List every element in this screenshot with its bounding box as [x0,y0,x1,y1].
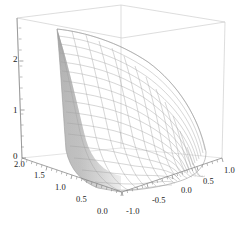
x-tick-label: 0.5 [76,195,87,204]
y-tick-label: -0.5 [152,196,165,205]
y-tick-label: 0.0 [181,186,192,195]
frame-bottom-back [22,148,222,158]
x-tick-label: 2.0 [14,160,25,169]
y-tick-label: 1.0 [224,166,235,175]
frame-edge-right [222,22,225,158]
z-tick-label: 2 [13,55,18,64]
x-tick-label: 1.5 [34,171,45,180]
mesh-line-b [173,116,196,176]
shaded-cut-face [57,29,121,192]
y-tick-label: -1.0 [126,207,139,216]
z-tick-label: 1 [13,106,18,115]
y-tick-label: 0.5 [203,177,214,186]
mesh-line-b [180,131,200,176]
x-tick-label: 0.0 [97,207,108,216]
axes-group [17,18,223,196]
plot-canvas [0,0,243,234]
cut-face-shadow [57,29,121,192]
x-tick-label: 1.0 [55,183,66,192]
surface-plot-figure: 0 1 2 2.0 1.5 1.0 0.5 0.0 -1.0 -0.5 0.0 … [0,0,243,234]
